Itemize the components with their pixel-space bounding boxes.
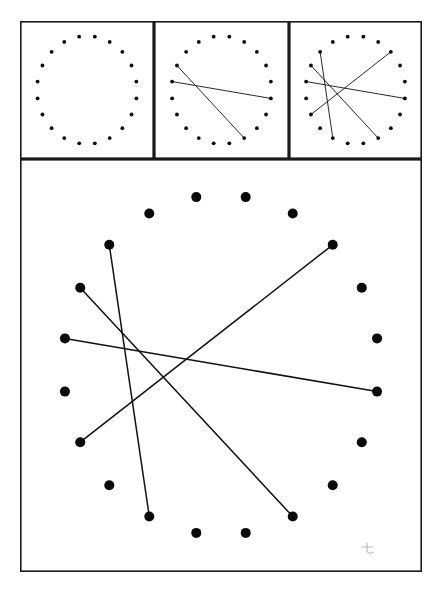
panel-3-four-chords-dot-4: [389, 50, 393, 54]
panel-3-four-chords-dot-1: [346, 35, 350, 39]
panel-1-dots-only-dot-9: [120, 126, 124, 130]
panel-4-main-large-dot-10: [288, 511, 298, 521]
panel-4-main-large-dot-18: [75, 283, 85, 293]
panel-1-dots-only-dot-16: [36, 97, 40, 101]
panel-1-dots-only-dot-5: [130, 64, 134, 68]
panel-1-dots-only-dot-15: [41, 113, 45, 117]
panel-2-two-chords-dot-20: [197, 40, 201, 44]
panel-2-two-chords-dot-5: [264, 64, 268, 68]
panel-4-main-large-dot-2: [241, 192, 251, 202]
panel-4-main-large-dot-20: [144, 209, 154, 219]
panel-2-two-chords-dot-10: [242, 136, 246, 140]
panel-3-four-chords-dot-2: [361, 35, 365, 39]
panel-3-four-chords-dot-18: [309, 64, 313, 68]
panel-1-dots-only-dot-8: [130, 113, 134, 117]
panel-2-two-chords-dot-2: [227, 35, 231, 39]
panel-2-two-chords-dot-17: [170, 80, 174, 84]
panel-4-main-large-dot-8: [357, 437, 367, 447]
panel-3-four-chords-dot-11: [361, 141, 365, 145]
panel-3-four-chords-dot-10: [376, 136, 380, 140]
panel-3-four-chords-dot-15: [309, 113, 313, 117]
panel-1-dots-only-dot-14: [50, 126, 54, 130]
panel-1-dots-only-dot-7: [134, 97, 138, 101]
panel-3-four-chords-dot-13: [331, 136, 335, 140]
panel-4-main-large-dot-4: [328, 240, 338, 250]
panel-4-main-large-dot-7: [372, 387, 382, 397]
panel-4-main-large: [21, 160, 421, 571]
panel-2-two-chords-dot-4: [255, 50, 259, 54]
figure-canvas: [0, 0, 443, 591]
panel-3-four-chords-dot-17: [304, 80, 308, 84]
panel-2-two-chords-dot-1: [212, 35, 216, 39]
panel-1-dots-only-dot-6: [134, 80, 138, 84]
panel-3-four-chords-dot-8: [398, 113, 402, 117]
panel-3-four-chords-dot-5: [398, 64, 402, 68]
panel-3-four-chords-dot-9: [389, 126, 393, 130]
panel-4-main-large-dot-16: [60, 387, 70, 397]
panel-2-two-chords-dot-16: [170, 97, 174, 101]
panel-2-two-chords-dot-12: [212, 141, 216, 145]
panel-4-main-large-dot-15: [75, 437, 85, 447]
panel-3-four-chords-dot-7: [403, 97, 407, 101]
panel-1-dots-only-dot-18: [41, 64, 45, 68]
panel-2-two-chords-dot-7: [269, 97, 273, 101]
panel-4-main-large-dot-19: [104, 240, 114, 250]
panel-4-main-large-dot-9: [328, 480, 338, 490]
panel-2-two-chords-dot-14: [184, 126, 188, 130]
panel-1-dots-only-frame: [21, 22, 153, 158]
panel-1-dots-only: [21, 22, 153, 158]
figure-root: [0, 0, 443, 591]
panel-1-dots-only-dot-2: [93, 35, 97, 39]
panel-1-dots-only-dot-11: [93, 141, 97, 145]
panel-4-main-large-dot-11: [241, 528, 251, 538]
panel-2-two-chords-dot-3: [242, 40, 246, 44]
panel-4-main-large-dot-14: [104, 480, 114, 490]
panel-1-dots-only-dot-13: [62, 136, 66, 140]
panel-3-four-chords-dot-19: [318, 50, 322, 54]
panel-3-four-chords-dot-3: [376, 40, 380, 44]
panel-3-four-chords-dot-20: [331, 40, 335, 44]
panel-1-dots-only-dot-10: [108, 136, 112, 140]
panel-2-two-chords-dot-8: [264, 113, 268, 117]
panels-layer: [21, 21, 421, 571]
panel-1-dots-only-dot-1: [77, 35, 81, 39]
panel-3-four-chords-dot-12: [346, 141, 350, 145]
panel-1-dots-only-dot-12: [77, 141, 81, 145]
panel-2-two-chords-dot-11: [227, 141, 231, 145]
panel-1-dots-only-dot-4: [120, 50, 124, 54]
panel-4-main-large-dot-1: [191, 192, 201, 202]
panel-4-main-large-dot-12: [191, 528, 201, 538]
panel-2-two-chords-dot-18: [175, 64, 179, 68]
panel-3-four-chords-dot-6: [403, 80, 407, 84]
panel-2-two-chords-dot-19: [184, 50, 188, 54]
panel-2-two-chords-dot-6: [269, 80, 273, 84]
panel-3-four-chords: [290, 22, 421, 158]
panel-4-main-large-dot-3: [288, 209, 298, 219]
panel-2-two-chords-dot-13: [197, 136, 201, 140]
panel-1-dots-only-dot-19: [50, 50, 54, 54]
panel-3-four-chords-dot-14: [318, 126, 322, 130]
panel-2-two-chords-dot-15: [175, 113, 179, 117]
panel-4-main-large-dot-17: [60, 333, 70, 343]
panel-4-main-large-dot-6: [372, 333, 382, 343]
panel-1-dots-only-dot-3: [108, 40, 112, 44]
panel-1-dots-only-dot-17: [36, 80, 40, 84]
panel-4-main-large-dot-5: [357, 283, 367, 293]
panel-2-two-chords-dot-9: [255, 126, 259, 130]
panel-4-main-large-dot-13: [144, 511, 154, 521]
panel-3-four-chords-dot-16: [304, 97, 308, 101]
panel-2-two-chords: [155, 22, 288, 158]
panel-1-dots-only-dot-20: [62, 40, 66, 44]
